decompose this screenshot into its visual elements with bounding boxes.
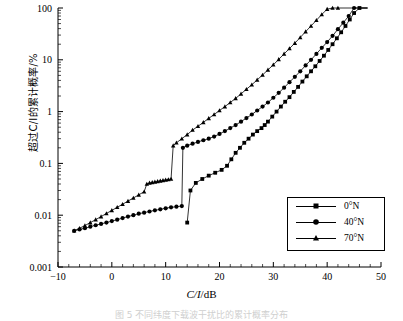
square-marker	[326, 48, 330, 52]
x-axis-label: C/I/dB	[0, 288, 403, 300]
square-marker	[189, 189, 193, 193]
circle-marker	[234, 123, 238, 127]
square-marker	[242, 141, 246, 145]
triangle-marker	[131, 196, 135, 200]
square-marker	[213, 171, 217, 175]
square-marker	[352, 11, 356, 15]
x-tick-label: 40	[322, 271, 332, 282]
square-marker	[270, 115, 274, 119]
square-marker	[225, 164, 229, 168]
x-tick-label: 30	[268, 271, 278, 282]
circle-marker	[250, 112, 254, 116]
triangle-marker	[104, 211, 108, 215]
circle-marker	[158, 207, 162, 211]
y-tick-label: 1	[47, 106, 52, 117]
circle-marker	[244, 116, 248, 120]
circle-marker	[336, 27, 340, 31]
triangle-marker	[180, 136, 184, 140]
circle-marker	[330, 34, 334, 38]
square-marker	[309, 69, 313, 73]
circle-marker	[104, 220, 108, 224]
square-marker	[200, 177, 204, 181]
square-marker	[318, 59, 322, 63]
square-marker	[229, 157, 233, 161]
circle-marker	[304, 63, 308, 67]
square-marker	[251, 133, 255, 137]
triangle-marker	[201, 120, 205, 124]
y-axis-label: 超过C/I的累计概率/%	[25, 23, 40, 183]
square-marker	[194, 181, 198, 185]
square-marker	[283, 100, 287, 104]
square-marker	[247, 137, 251, 141]
circle-marker	[223, 129, 227, 133]
triangle-marker	[223, 104, 227, 108]
triangle-marker	[126, 199, 130, 203]
square-marker	[260, 126, 264, 130]
circle-marker	[185, 144, 189, 148]
triangle-marker	[77, 226, 81, 230]
triangle-marker	[174, 140, 178, 144]
y-tick-label: 0.01	[35, 210, 53, 221]
circle-marker	[260, 104, 264, 108]
triangle-marker	[212, 112, 216, 116]
square-marker	[301, 80, 305, 84]
triangle-marker	[169, 177, 173, 181]
square-marker	[238, 146, 242, 150]
square-marker	[322, 54, 326, 58]
x-axis-label-quantity: C/I	[187, 288, 201, 300]
legend-label-2: 70°N	[344, 230, 364, 246]
circle-marker	[180, 204, 184, 208]
triangle-marker	[217, 108, 221, 112]
y-tick-label: 10	[42, 54, 52, 65]
circle-marker	[181, 146, 185, 150]
square-marker	[288, 95, 292, 99]
chart-legend: 0°N 40°N 70°N	[287, 197, 385, 251]
circle-marker	[153, 208, 157, 212]
circle-marker	[217, 132, 221, 136]
circle-marker	[201, 138, 205, 142]
triangle-marker	[207, 116, 211, 120]
square-marker	[275, 110, 279, 114]
legend-item-2[interactable]: 70°N	[288, 230, 384, 246]
legend-label-1: 40°N	[344, 214, 364, 230]
circle-marker	[287, 80, 291, 84]
triangle-marker	[190, 128, 194, 132]
square-marker	[296, 85, 300, 89]
circle-marker	[212, 134, 216, 138]
triangle-marker	[110, 208, 114, 212]
square-marker	[279, 105, 283, 109]
circle-marker	[314, 52, 318, 56]
triangle-marker	[88, 220, 92, 224]
square-marker	[234, 151, 238, 155]
square-marker	[263, 123, 267, 127]
circle-marker	[255, 108, 259, 112]
circle-marker	[137, 212, 141, 216]
circle-marker	[169, 205, 173, 209]
circle-marker	[228, 126, 232, 130]
circle-marker	[164, 206, 168, 210]
circle-marker	[293, 75, 297, 79]
square-marker	[207, 174, 211, 178]
circle-marker	[239, 120, 243, 124]
x-tick-label: 50	[376, 271, 386, 282]
square-marker	[313, 64, 317, 68]
circle-marker	[282, 86, 286, 90]
circle-marker	[115, 218, 119, 222]
square-marker	[255, 129, 259, 133]
legend-label-0: 0°N	[344, 198, 359, 214]
circle-marker	[271, 96, 275, 100]
triangle-marker	[228, 100, 232, 104]
square-marker	[266, 120, 270, 124]
square-marker	[292, 90, 296, 94]
circle-marker	[88, 225, 92, 229]
triangle-marker	[312, 234, 321, 243]
circle-marker	[312, 218, 321, 227]
circle-marker	[110, 219, 114, 223]
circle-marker	[325, 40, 329, 44]
legend-item-0[interactable]: 0°N	[288, 198, 384, 214]
x-tick-label: 10	[161, 271, 171, 282]
circle-marker	[94, 223, 98, 227]
legend-item-1[interactable]: 40°N	[288, 214, 384, 230]
